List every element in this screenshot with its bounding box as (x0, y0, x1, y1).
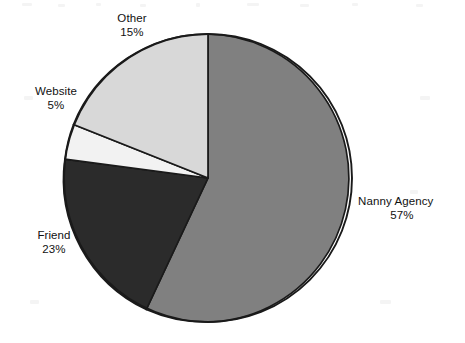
slice-label-friend-name: Friend (6, 229, 102, 243)
slice-label-other-name: Other (84, 12, 180, 26)
slice-label-friend-value: 23% (6, 243, 102, 257)
slice-label-website-value: 5% (8, 99, 104, 113)
slice-label-nanny-agency: Nanny Agency 57% (358, 195, 463, 222)
slice-label-other: Other 15% (84, 12, 180, 39)
slice-label-friend: Friend 23% (6, 229, 102, 256)
pie-chart: Other 15% Website 5% Friend 23% Nanny Ag… (0, 0, 465, 343)
slice-label-website-name: Website (8, 85, 104, 99)
slice-label-website: Website 5% (8, 85, 104, 112)
pie-svg (0, 0, 465, 343)
slice-label-other-value: 15% (84, 26, 180, 40)
slice-label-nanny-agency-value: 57% (358, 209, 446, 223)
slice-label-nanny-agency-name: Nanny Agency (358, 195, 463, 209)
